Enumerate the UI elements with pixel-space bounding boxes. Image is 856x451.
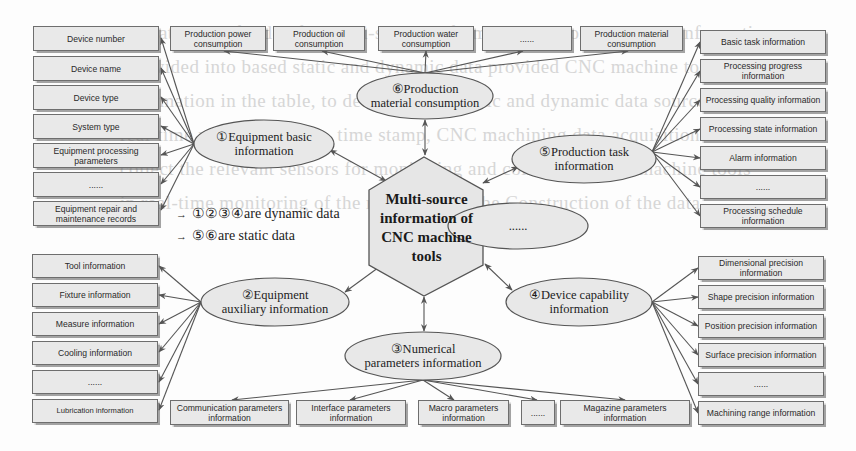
item-more-device-capability[interactable]: ...... <box>698 372 824 396</box>
connector-numerical-parameters-item <box>350 380 423 400</box>
diagram-canvas: the category of index for multi-source i… <box>0 0 856 451</box>
connector-production-material-item <box>425 51 426 73</box>
item-processing-quality-information[interactable]: Processing quality information <box>700 88 826 112</box>
connector-equipment-auxiliary-item <box>159 302 201 410</box>
item-production-oil-consumption[interactable]: Production oil consumption <box>273 26 365 51</box>
connector-equipment-basic-item <box>161 97 194 144</box>
item-measure-information[interactable]: Measure information <box>32 312 158 336</box>
connector-production-task-item <box>652 100 700 152</box>
node-label-line: ③Numerical <box>365 342 482 356</box>
node-label-line: ②Equipment <box>222 288 329 302</box>
arrow-right-icon: → <box>176 208 187 220</box>
connector-numerical-parameters-item <box>232 380 423 400</box>
node-label-line: ④Device capability <box>529 288 629 302</box>
item-shape-precision-information[interactable]: Shape precision information <box>698 285 824 309</box>
connector-production-material-item <box>425 51 628 73</box>
node-label-line: information <box>529 302 629 316</box>
item-processing-schedule-information[interactable]: Processing schedule information <box>700 204 826 228</box>
node-numerical-parameters[interactable]: ③Numericalparameters information <box>345 333 501 379</box>
connector-hub-equipment-basic <box>330 150 386 181</box>
node-label-line: material consumption <box>371 96 480 110</box>
connector-production-task-item <box>652 42 700 152</box>
connector-device-capability-item <box>652 302 698 355</box>
node-device-capability[interactable]: ④Device capabilityinformation <box>506 279 652 325</box>
node-equipment-basic[interactable]: ①Equipment basicinformation <box>194 121 334 167</box>
connector-equipment-auxiliary-item <box>159 302 201 382</box>
item-processing-state-information[interactable]: Processing state information <box>700 117 826 141</box>
legend-static-text: ⑤⑥are static data <box>192 228 295 243</box>
item-repair-maintenance-records[interactable]: Equipment repair and maintenance records <box>33 201 159 226</box>
node-label-line: information <box>216 144 312 158</box>
item-basic-task-information[interactable]: Basic task information <box>700 30 826 54</box>
connector-production-material-item <box>425 51 523 73</box>
item-device-number[interactable]: Device number <box>33 26 159 51</box>
item-system-type[interactable]: System type <box>33 114 159 139</box>
connector-production-material-item <box>322 51 425 73</box>
legend-dynamic-text: ①②③④are dynamic data <box>192 206 340 221</box>
connector-device-capability-item <box>652 268 698 302</box>
node-label-line: parameters information <box>365 356 482 370</box>
item-production-material-consumption[interactable]: Production material consumption <box>580 26 683 51</box>
item-dimensional-precision-information[interactable]: Dimensional precision information <box>698 256 824 280</box>
arrow-right-icon: → <box>176 230 187 242</box>
item-device-type[interactable]: Device type <box>33 85 159 110</box>
node-label-line: information <box>539 159 629 173</box>
connector-production-material-item <box>224 51 425 73</box>
connector-equipment-auxiliary-item <box>159 302 201 352</box>
connector-production-task-item <box>652 71 700 152</box>
item-machining-range-information[interactable]: Machining range information <box>698 401 824 425</box>
item-more-production-task[interactable]: ...... <box>700 175 826 199</box>
item-more-numerical-parameters[interactable]: ...... <box>521 400 555 425</box>
item-more-equipment-auxiliary[interactable]: ...... <box>32 370 158 394</box>
item-magazine-parameters-information[interactable]: Magazine parameters information <box>560 400 690 425</box>
node-other[interactable]: ...... <box>448 203 588 249</box>
item-interface-parameters-information[interactable]: Interface parameters information <box>296 400 406 425</box>
connector-device-capability-item <box>652 302 698 413</box>
node-label-line: ①Equipment basic <box>216 130 312 144</box>
center-title-line: tools <box>380 247 473 266</box>
connector-device-capability-item <box>652 297 698 302</box>
item-position-precision-information[interactable]: Position precision information <box>698 314 824 338</box>
legend-dynamic: →①②③④are dynamic data <box>176 205 340 222</box>
item-alarm-information[interactable]: Alarm information <box>700 146 826 170</box>
item-more-production-material[interactable]: ...... <box>482 26 572 51</box>
item-device-name[interactable]: Device name <box>33 56 159 81</box>
item-equipment-processing-parameters[interactable]: Equipment processing parameters <box>33 143 159 168</box>
node-label-line: ⑥Production <box>371 82 480 96</box>
item-fixture-information[interactable]: Fixture information <box>32 283 158 307</box>
legend-static: →⑤⑥are static data <box>176 227 295 244</box>
item-lubrication-information[interactable]: Lubrication information <box>32 399 158 423</box>
node-label-line: ⑤Production task <box>539 145 629 159</box>
node-production-task[interactable]: ⑤Production taskinformation <box>512 136 656 182</box>
item-tool-information[interactable]: Tool information <box>32 254 158 278</box>
item-surface-precision-information[interactable]: Surface precision information <box>698 343 824 367</box>
item-processing-progress-information[interactable]: Processing progress information <box>700 59 826 83</box>
node-production-material[interactable]: ⑥Productionmaterial consumption <box>357 73 493 119</box>
item-production-water-consumption[interactable]: Production water consumption <box>378 26 474 51</box>
item-macro-parameters-information[interactable]: Macro parameters information <box>418 400 509 425</box>
item-communication-parameters-information[interactable]: Communication parameters information <box>170 400 289 425</box>
item-more-equipment-basic[interactable]: ...... <box>33 172 159 197</box>
node-label-line: auxiliary information <box>222 302 329 316</box>
connector-equipment-basic-item <box>161 68 194 144</box>
connector-numerical-parameters-item <box>423 380 625 400</box>
node-equipment-auxiliary[interactable]: ②Equipmentauxiliary information <box>201 279 349 325</box>
connector-production-task-item <box>652 152 700 216</box>
item-production-power-consumption[interactable]: Production power consumption <box>170 26 266 51</box>
node-label-line: ...... <box>509 219 528 233</box>
item-cooling-information[interactable]: Cooling information <box>32 341 158 365</box>
